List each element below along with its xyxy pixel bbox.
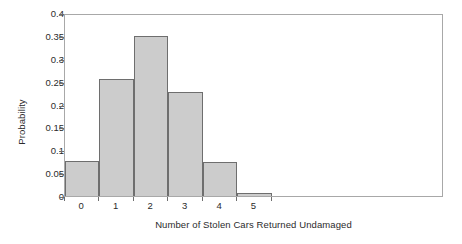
x-tick-mark <box>64 197 65 201</box>
histogram-figure: Probability 00.050.10.150.20.250.30.350.… <box>0 0 462 244</box>
x-tick-mark <box>133 197 134 201</box>
x-tick-label: 3 <box>170 200 200 212</box>
x-tick-label: 2 <box>135 200 165 212</box>
x-tick-label: 5 <box>239 200 269 212</box>
x-tick-label: 0 <box>66 200 96 212</box>
x-tick-label: 1 <box>101 200 131 212</box>
x-axis-ticks: 012345 <box>0 0 462 244</box>
x-tick-mark <box>98 197 99 201</box>
x-tick-mark <box>236 197 237 201</box>
x-tick-mark <box>167 197 168 201</box>
x-tick-label: 4 <box>204 200 234 212</box>
x-tick-mark <box>271 197 272 201</box>
x-axis-title: Number of Stolen Cars Returned Undamaged <box>64 219 443 230</box>
x-tick-mark <box>202 197 203 201</box>
